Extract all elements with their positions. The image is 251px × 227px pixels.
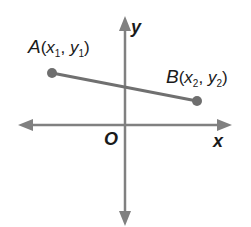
point-a-letter: A (28, 36, 41, 57)
y-axis-up-arrow-icon (119, 16, 131, 31)
x-axis-right-arrow-icon (217, 119, 232, 131)
y-axis-down-arrow-icon (119, 211, 131, 226)
point-a-label: A(x1, y1) (28, 37, 90, 59)
coordinate-plane (0, 0, 251, 227)
y-axis-label: y (131, 18, 141, 36)
point-a-dot (47, 68, 57, 78)
origin-label: O (104, 130, 118, 148)
point-b-dot (192, 96, 202, 106)
x-axis-label: x (213, 132, 223, 150)
x-axis-left-arrow-icon (18, 119, 33, 131)
point-b-label: B(x2, y2) (166, 67, 228, 89)
y-axis (119, 16, 131, 226)
point-b-letter: B (166, 66, 179, 87)
